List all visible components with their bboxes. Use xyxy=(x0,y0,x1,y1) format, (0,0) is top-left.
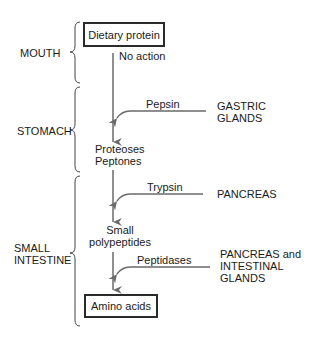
node-small: Small xyxy=(84,224,156,236)
node-amino-acids-label: Amino acids xyxy=(91,300,151,312)
node-dietary-protein-label: Dietary protein xyxy=(88,29,160,41)
enzyme-label-peptidases: Peptidases xyxy=(137,254,191,266)
protein-digestion-diagram: MOUTH STOMACH SMALL INTESTINE Dietary pr… xyxy=(0,0,311,341)
source-gastric-glands-1: GASTRIC xyxy=(217,100,266,112)
source-pancreas-intestinal-1: PANCREAS and xyxy=(220,248,301,260)
source-gastric-glands-2: GLANDS xyxy=(217,112,262,124)
trypsin-branch xyxy=(117,194,203,201)
pepsin-branch xyxy=(117,111,206,118)
enzyme-label-pepsin: Pepsin xyxy=(146,98,180,110)
region-braces xyxy=(70,22,80,326)
node-polypeptides: polypeptides xyxy=(84,236,156,248)
source-pancreas-intestinal-3: GLANDS xyxy=(220,272,265,284)
source-pancreas-intestinal-2: INTESTINAL xyxy=(220,260,284,272)
node-proteoses: Proteoses xyxy=(95,143,145,155)
region-label-stomach: STOMACH xyxy=(17,125,72,137)
small-intestine-brace xyxy=(70,176,80,326)
enzyme-label-no-action: No action xyxy=(119,50,165,62)
enzyme-label-trypsin: Trypsin xyxy=(147,181,183,193)
node-dietary-protein: Dietary protein xyxy=(83,22,165,47)
node-peptones: Peptones xyxy=(95,155,141,167)
region-label-mouth: MOUTH xyxy=(20,47,60,59)
peptidases-branch xyxy=(117,267,210,274)
source-pancreas: PANCREAS xyxy=(217,188,277,200)
region-label-small-intestine-1: SMALL xyxy=(14,242,50,254)
mouth-brace xyxy=(70,22,80,83)
region-label-small-intestine-2: INTESTINE xyxy=(14,254,71,266)
node-amino-acids: Amino acids xyxy=(84,294,158,318)
